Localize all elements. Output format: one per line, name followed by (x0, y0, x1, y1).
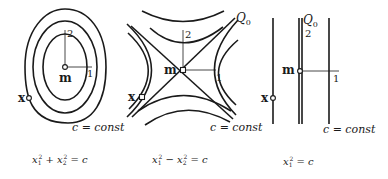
mean-label: m (59, 71, 72, 85)
panel-hyperbola: m x 2 1 Q0 c = const (127, 11, 263, 134)
quadric-level-sets-figure: m x 2 1 c = const m x 2 1 Q0 c = const (0, 0, 388, 179)
axis-1-label: 1 (87, 68, 93, 79)
asymptote-label: Q0 (303, 13, 318, 29)
curve-label: c = const (210, 121, 263, 134)
hyperbola-top-outer (142, 11, 224, 22)
panel-ellipse: m x 2 1 c = const (18, 9, 125, 134)
x-point (271, 96, 276, 101)
mean-point (298, 69, 303, 74)
mean-label: m (164, 63, 177, 77)
panel-lines: m x 2 1 Q0 c = const (261, 13, 376, 136)
axis-2-label: 2 (185, 29, 191, 40)
axis-1-label: 1 (216, 72, 222, 83)
equation-lines: x12 = c (283, 155, 314, 168)
axis-1-label: 1 (333, 73, 339, 84)
x-label: x (18, 91, 26, 105)
mean-label: m (282, 63, 295, 77)
x-point (140, 95, 145, 100)
curve-label: c = const (72, 121, 125, 134)
x-label: x (128, 90, 136, 104)
x-label: x (261, 91, 269, 105)
axis-2-label: 2 (67, 28, 73, 39)
x-point (27, 96, 32, 101)
curve-label: c = const (323, 123, 376, 136)
equation-ellipse: x12 + x22 = c (32, 153, 88, 166)
equation-hyperbola: x12 − x22 = c (152, 153, 208, 166)
mean-point (63, 65, 68, 70)
mean-point (181, 68, 186, 73)
asymptote-label: Q0 (236, 11, 251, 27)
axis-2-label: 2 (305, 28, 311, 39)
